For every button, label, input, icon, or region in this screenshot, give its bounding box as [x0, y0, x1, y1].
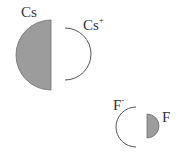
f-ion-arc [116, 107, 136, 147]
f-ion-charge: - [121, 95, 124, 105]
f-label: F [162, 110, 170, 125]
cs-ion-arc [65, 28, 91, 80]
cs-atom-half-disc [16, 20, 51, 90]
f-atom-half-disc [147, 114, 159, 138]
cs-ion-label: Cs+ [83, 18, 104, 33]
f-ion-label: F- [113, 98, 124, 113]
f-label-text: F [162, 109, 170, 125]
cs-label: Cs [21, 5, 37, 20]
cs-ion-charge: + [99, 15, 104, 25]
cs-label-text: Cs [21, 4, 37, 20]
cs-ion-label-text: Cs [83, 17, 99, 33]
